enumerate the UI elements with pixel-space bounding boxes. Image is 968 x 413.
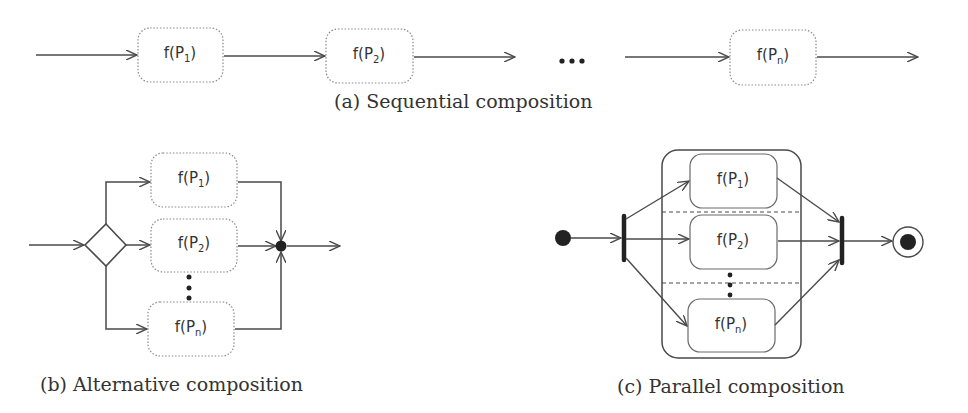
par-box-2-label: f(P2): [717, 233, 749, 251]
alt-merge-node-icon: [276, 241, 287, 252]
alt-merge-1: [238, 182, 281, 241]
seq-box-n-label: f(Pn): [757, 48, 789, 66]
par-fork-arrow-1: [626, 181, 689, 219]
par-fork-arrow-n: [626, 258, 687, 326]
alt-box-n-label: f(Pn): [175, 320, 207, 338]
caption-alternative: (b) Alternative composition: [40, 375, 303, 394]
seq-box-2-label: f(P2): [353, 47, 385, 65]
par-join-arrow-n: [775, 260, 839, 325]
composition-figure: f(P1) f(P2) f(Pn) (a) Sequential composi…: [0, 0, 968, 413]
seq-ellipsis-icon: [559, 58, 584, 63]
caption-sequential: (a) Sequential composition: [334, 92, 592, 111]
alt-merge-n: [235, 252, 281, 329]
par-final-node-inner-icon: [900, 234, 916, 250]
alt-branch-1: [106, 182, 150, 224]
alt-branch-n: [106, 266, 147, 329]
par-box-n-label: f(Pn): [715, 317, 747, 335]
alt-box-1-label: f(P1): [178, 171, 210, 189]
alt-vertical-ellipsis-icon: [187, 275, 192, 301]
par-box-1-label: f(P1): [717, 172, 749, 190]
par-initial-node-icon: [555, 230, 571, 246]
diagram-canvas: [0, 0, 968, 413]
seq-box-1-label: f(P1): [164, 46, 196, 64]
caption-parallel: (c) Parallel composition: [617, 377, 845, 396]
par-vertical-ellipsis-icon: [728, 273, 733, 298]
par-join-arrow-1: [777, 178, 839, 222]
alt-decision-diamond-icon: [85, 224, 126, 266]
alt-box-2-label: f(P2): [178, 236, 210, 254]
